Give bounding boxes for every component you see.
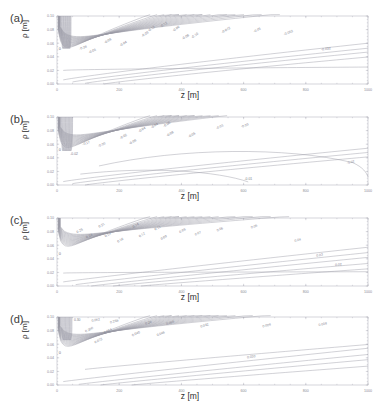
contour-label: -0.02 (70, 152, 78, 156)
y-tick-label: 0.06 (47, 343, 54, 347)
y-tick-label: 0.08 (47, 129, 54, 133)
y-tick-label: 0.04 (47, 55, 54, 59)
panel-a: (a) ρ [m] 020040060080010000.000.020.040… (0, 4, 380, 104)
panel-d: (d) ρ [m] 020040060080010000.000.020.040… (0, 305, 380, 405)
y-tick-label: 0.02 (47, 170, 54, 174)
y-tick-label: 0.00 (47, 284, 54, 288)
panel-b-plot: 020040060080010000.000.020.040.060.080.1… (0, 105, 380, 205)
plot-frame (57, 317, 368, 385)
y-tick-label: 0.08 (47, 329, 54, 333)
panel-c-xlabel: z [m] (0, 292, 380, 302)
panel-c-plot: 020040060080010000.000.020.040.060.080.1… (0, 206, 380, 306)
contour-label: 0.30 (74, 318, 81, 322)
panel-d-plot: 020040060080010000.000.020.040.060.080.1… (0, 305, 380, 405)
y-tick-label: 0.10 (47, 216, 54, 220)
figure-contour-panels: (a) ρ [m] 020040060080010000.000.020.040… (0, 0, 380, 410)
contour-label: -0.01 (244, 177, 252, 181)
y-tick-label: 0.08 (47, 230, 54, 234)
panel-a-plot: 020040060080010000.000.020.040.060.080.1… (0, 4, 380, 104)
y-tick-label: 0.00 (47, 383, 54, 387)
plot-frame (57, 117, 368, 185)
panel-a-xlabel: z [m] (0, 90, 380, 100)
y-tick-label: 0.02 (47, 69, 54, 73)
y-tick-label: 0.06 (47, 143, 54, 147)
y-tick-label: 0.10 (47, 115, 54, 119)
y-tick-label: 0.06 (47, 42, 54, 46)
y-tick-label: 0.00 (47, 82, 54, 86)
panel-d-xlabel: z [m] (0, 391, 380, 401)
y-tick-label: 0.10 (47, 14, 54, 18)
y-tick-label: 0.04 (47, 356, 54, 360)
panel-b: (b) ρ [m] 020040060080010000.000.020.040… (0, 105, 380, 205)
y-tick-label: 0.10 (47, 315, 54, 319)
y-tick-label: 0.06 (47, 244, 54, 248)
y-tick-label: 0.00 (47, 183, 54, 187)
y-tick-label: 0.04 (47, 156, 54, 160)
y-tick-label: 0.08 (47, 28, 54, 32)
y-tick-label: 0.02 (47, 271, 54, 275)
y-tick-label: 0.02 (47, 370, 54, 374)
panel-c: (c) ρ [m] 020040060080010000.000.020.040… (0, 206, 380, 306)
y-tick-label: 0.04 (47, 257, 54, 261)
panel-b-xlabel: z [m] (0, 191, 380, 201)
